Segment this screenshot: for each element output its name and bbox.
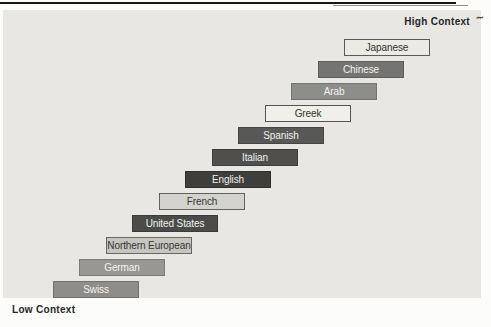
culture-box-german: German [79,259,165,276]
top-rule-shadow [333,5,468,6]
low-context-label: Low Context [12,304,75,315]
culture-box-french: French [159,193,245,210]
culture-box-swiss: Swiss [53,281,139,298]
culture-box-united-states: United States [132,215,218,232]
culture-box-japanese: Japanese [344,39,430,56]
top-rule [0,2,456,4]
culture-box-english: English [185,171,271,188]
high-context-label: High Context [404,16,470,27]
culture-box-spanish: Spanish [238,127,324,144]
culture-box-arab: Arab [291,83,377,100]
culture-box-chinese: Chinese [318,61,404,78]
culture-box-greek: Greek [265,105,351,122]
culture-box-northern-european: Northern European [106,237,192,254]
scanned-figure: High Context ~ SwissGermanNorthern Europ… [0,0,491,327]
culture-box-italian: Italian [212,149,298,166]
pen-tick-mark: ~ [475,9,485,25]
